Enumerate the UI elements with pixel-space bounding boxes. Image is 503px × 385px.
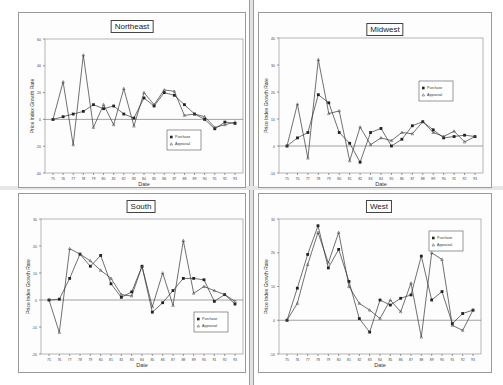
x-tick-label: 79 [327,177,331,181]
square-marker [317,224,320,227]
legend: PurchaseAppraisal [419,81,453,101]
legend: PurchaseAppraisal [167,130,201,150]
square-marker [182,277,185,280]
x-tick-label: 88 [421,177,425,181]
legend-label: Purchase [175,135,190,139]
x-tick-label: 80 [337,358,341,362]
square-marker [92,103,95,106]
legend-label: Appraisal [202,324,217,328]
x-tick-label: 77 [306,358,310,362]
square-marker [359,161,362,164]
y-axis-label: Price Index Growth Rate [263,259,269,314]
square-marker [203,278,206,281]
square-marker [58,298,61,301]
x-tick-label: 92 [461,358,465,362]
x-tick-label: 75 [51,177,55,181]
square-marker [327,267,330,270]
square-marker [358,317,361,320]
legend-box [429,231,463,251]
y-tick-label: 30 [271,64,275,68]
square-marker [203,118,206,121]
legend-box [167,130,201,150]
chart-midwest: 403020100-107576777879808182838485868788… [259,13,493,189]
x-axis-label: Date [375,181,387,187]
square-marker [112,105,115,108]
legend-square-icon [432,237,435,240]
x-tick-label: 75 [285,177,289,181]
square-marker [399,297,402,300]
x-tick-label: 78 [316,358,320,362]
square-marker [120,296,123,299]
legend-box [419,81,453,101]
x-tick-label: 89 [431,177,435,181]
y-tick-label: 0 [273,319,275,323]
square-marker [183,103,186,106]
x-tick-label: 81 [348,177,352,181]
x-tick-label: 76 [295,177,299,181]
legend: PurchaseAppraisal [429,231,463,251]
x-tick-label: 93 [471,358,475,362]
x-tick-label: 76 [57,358,61,362]
x-tick-label: 92 [223,358,227,362]
plot-area [45,39,243,173]
legend: PurchaseAppraisal [194,312,228,332]
x-tick-label: 80 [337,177,341,181]
x-tick-label: 77 [306,177,310,181]
y-tick-label: -10 [32,326,37,330]
x-tick-label: 92 [463,177,467,181]
x-tick-label: 89 [193,177,197,181]
x-axis-label: Date [138,181,150,187]
legend-square-icon [170,136,173,139]
y-tick-label: 30 [271,218,275,222]
y-tick-label: 30 [33,218,37,222]
y-tick-label: 0 [35,299,37,303]
x-tick-label: 75 [285,358,289,362]
x-tick-label: 79 [91,177,95,181]
square-marker [122,113,125,116]
chart-panel-northeast: Northeast 6040200-20-4075767778798081828… [18,12,246,188]
x-tick-label: 88 [181,358,185,362]
y-tick-label: 20 [271,251,275,255]
square-marker [368,331,371,334]
y-axis-label: Price Index Growth Rate [29,79,35,134]
x-axis-label: Date [374,362,386,368]
square-marker [72,113,75,116]
y-tick-label: 0 [273,145,275,149]
y-tick-label: 20 [271,91,275,95]
series-line-appraisal [287,60,475,161]
x-tick-label: 91 [450,358,454,362]
x-tick-label: 90 [202,358,206,362]
square-marker [453,135,456,138]
x-axis-label: Date [136,362,148,368]
x-tick-label: 79 [88,358,92,362]
square-marker [132,117,135,120]
series-line-purchase [49,254,235,312]
y-tick-label: 0 [39,118,41,122]
x-tick-label: 78 [81,177,85,181]
square-marker [420,255,423,258]
x-tick-label: 93 [233,177,237,181]
square-marker [390,145,393,148]
x-tick-label: 86 [399,358,403,362]
x-tick-label: 87 [171,358,175,362]
x-tick-label: 77 [71,177,75,181]
y-axis-label: Price Index Growth Rate [25,259,31,314]
y-tick-label: 20 [37,91,41,95]
square-marker [234,303,237,306]
chart-south: 3020100-10-20757677787980818283848586878… [19,194,247,374]
square-marker [380,127,383,130]
x-tick-label: 90 [442,177,446,181]
square-marker [151,311,154,314]
x-tick-label: 82 [119,358,123,362]
x-tick-label: 85 [388,358,392,362]
chart-northeast: 6040200-20-40757677787980818283848586878… [19,13,247,189]
x-tick-label: 85 [150,358,154,362]
square-marker [161,301,164,304]
square-marker [306,253,309,256]
x-tick-label: 91 [212,358,216,362]
square-marker [430,299,433,302]
x-tick-label: 90 [440,358,444,362]
x-tick-label: 83 [130,358,134,362]
chart-panel-south: South 3020100-10-20757677787980818283848… [18,193,246,373]
x-tick-label: 88 [182,177,186,181]
